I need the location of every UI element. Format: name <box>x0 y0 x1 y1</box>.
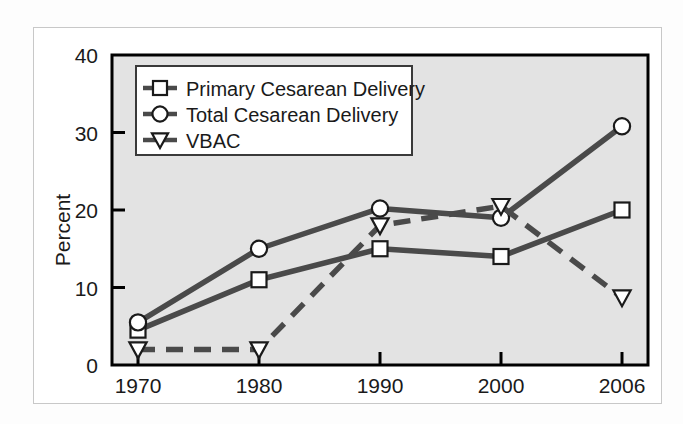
line-chart: 010203040 19701980199020002006 Percent P… <box>0 0 683 424</box>
y-axis-tick-label: 20 <box>75 199 98 222</box>
x-axis-tick-label: 2006 <box>599 374 646 397</box>
y-axis-title: Percent <box>51 194 74 267</box>
legend-item-label: Total Cesarean Delivery <box>186 104 398 126</box>
x-axis-tick-label: 1990 <box>357 374 404 397</box>
x-axis-tick-label: 2000 <box>478 374 525 397</box>
data-point-marker <box>130 314 146 330</box>
data-point-marker <box>252 272 267 287</box>
data-point-marker <box>373 241 388 256</box>
data-point-marker <box>494 249 509 264</box>
legend-marker <box>153 81 167 95</box>
y-axis-tick-label: 0 <box>86 354 98 377</box>
figure-root: 010203040 19701980199020002006 Percent P… <box>0 0 683 424</box>
data-point-marker <box>251 241 267 257</box>
chart-legend: Primary Cesarean DeliveryTotal Cesarean … <box>136 66 425 155</box>
y-axis-tick-label: 10 <box>75 277 98 300</box>
y-axis-tick-label: 40 <box>75 44 98 67</box>
x-axis-tick-label: 1980 <box>236 374 283 397</box>
legend-marker <box>152 106 167 121</box>
data-point-marker <box>372 200 388 216</box>
legend-item: Primary Cesarean Delivery <box>143 78 425 100</box>
legend-item-label: Primary Cesarean Delivery <box>186 78 425 100</box>
data-point-marker <box>615 203 630 218</box>
legend-item-label: VBAC <box>186 130 240 152</box>
data-point-marker <box>614 118 630 134</box>
x-axis-tick-label: 1970 <box>115 374 162 397</box>
y-axis-tick-label: 30 <box>75 122 98 145</box>
